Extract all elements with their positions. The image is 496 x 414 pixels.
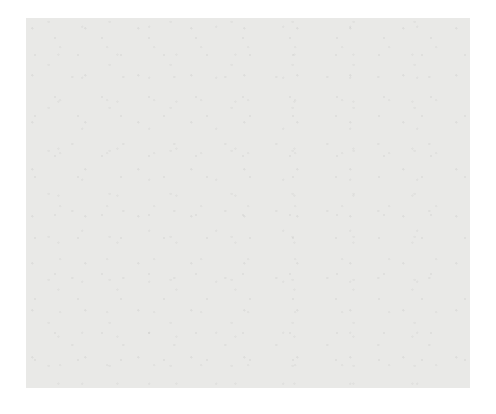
- graph-plot-area: [26, 18, 470, 388]
- node-layer: [26, 18, 470, 388]
- figure-canvas: [0, 0, 496, 414]
